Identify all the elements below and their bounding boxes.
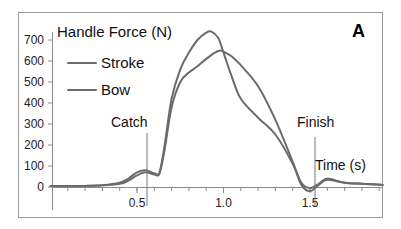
catch-label: Catch: [111, 114, 148, 130]
legend-label-stroke: Stroke: [101, 54, 144, 71]
legend: Stroke Bow: [68, 54, 144, 98]
x-tick-label: 1.5: [302, 196, 319, 210]
y-tick-label: 0: [37, 180, 44, 194]
force-time-chart: 01002003004005006007000.51.01.5 Handle F…: [0, 0, 401, 229]
y-tick-label: 100: [24, 159, 44, 173]
y-tick-label: 600: [24, 54, 44, 68]
y-tick-label: 400: [24, 96, 44, 110]
finish-label: Finish: [297, 114, 334, 130]
x-tick-label: 0.5: [129, 196, 146, 210]
y-tick-label: 500: [24, 75, 44, 89]
x-tick-label: 1.0: [215, 196, 232, 210]
y-tick-label: 700: [24, 33, 44, 47]
x-axis-label: Time (s): [315, 157, 366, 173]
y-tick-label: 300: [24, 117, 44, 131]
panel-label: A: [352, 21, 365, 41]
chart-title: Handle Force (N): [57, 23, 172, 40]
annotations: Catch Finish Time (s): [111, 114, 366, 206]
y-tick-label: 200: [24, 138, 44, 152]
legend-label-bow: Bow: [101, 81, 130, 98]
